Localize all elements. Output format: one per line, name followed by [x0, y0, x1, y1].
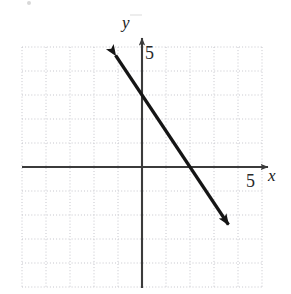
tick-label-x-5: 5 — [246, 172, 255, 190]
scan-artifact-top-left — [27, 1, 31, 5]
axis-label-y: y — [122, 14, 130, 31]
scan-artifact-top-center — [130, 14, 142, 16]
coordinate-graph-figure: y x 5 5 — [0, 0, 291, 294]
tick-label-y-5: 5 — [145, 44, 154, 62]
axis-label-x: x — [268, 167, 276, 184]
plot-line — [116, 55, 229, 224]
